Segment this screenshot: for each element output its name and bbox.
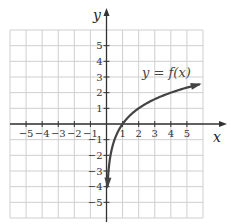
y-tick-label: 4 — [96, 56, 102, 67]
y-tick-label: −5 — [88, 197, 103, 208]
y-axis-arrow-icon — [104, 8, 110, 16]
y-axis-label: y — [92, 7, 102, 23]
y-tick-label: 1 — [96, 103, 102, 114]
x-tick-label: −5 — [19, 128, 34, 139]
x-tick-label: 4 — [168, 128, 174, 139]
y-tick-label: −3 — [88, 166, 103, 177]
function-label: y = f(x) — [141, 65, 191, 80]
x-tick-label: −4 — [35, 128, 50, 139]
y-tick-label: 2 — [96, 87, 102, 98]
x-tick-label: 5 — [184, 128, 190, 139]
y-tick-label: −2 — [88, 150, 103, 161]
curve-arrow-right-icon — [190, 83, 202, 90]
x-axis-arrow-icon — [219, 121, 227, 127]
x-tick-label: 3 — [152, 128, 158, 139]
y-tick-label: 5 — [96, 40, 102, 51]
x-tick-label: −2 — [67, 128, 82, 139]
x-axis-label: x — [213, 129, 221, 145]
x-tick-label: 1 — [119, 128, 125, 139]
y-tick-label: −4 — [88, 181, 103, 192]
x-tick-label: −3 — [51, 128, 66, 139]
y-tick-label: 3 — [96, 72, 102, 83]
y-tick-label: −1 — [88, 134, 103, 145]
x-tick-label: 2 — [135, 128, 141, 139]
graph: −5−4−3−2−11234554321−1−2−3−4−5 x y y = f… — [0, 0, 231, 224]
